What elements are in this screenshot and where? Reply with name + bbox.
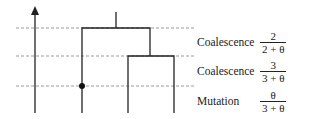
event-row-2: Coalescence 3 3 + θ xyxy=(197,56,286,86)
lower-branch xyxy=(128,56,174,113)
event-label: Coalescence xyxy=(197,36,260,48)
mutation-dot xyxy=(79,83,85,89)
arrow-head-icon xyxy=(31,6,39,15)
event-row-3: Mutation θ 3 + θ xyxy=(197,86,286,116)
event-label: Coalescence xyxy=(197,65,260,77)
event-rate: 2 2 + θ xyxy=(260,30,286,55)
top-branch xyxy=(82,28,150,113)
event-rate: θ 3 + θ xyxy=(260,89,286,114)
event-label: Mutation xyxy=(197,95,260,107)
event-rate: 3 3 + θ xyxy=(260,59,286,84)
event-row-1: Coalescence 2 2 + θ xyxy=(197,27,286,57)
